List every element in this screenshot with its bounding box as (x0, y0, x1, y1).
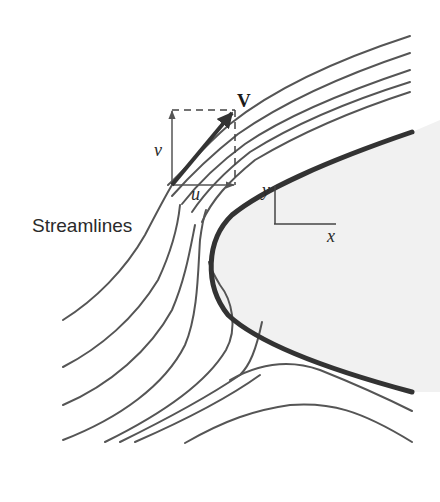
diagram-canvas: V v u y x Streamlines (0, 0, 440, 502)
u-component-label: u (191, 184, 200, 204)
streamline-diagram: V v u y x Streamlines (0, 0, 440, 502)
v-component-label: v (154, 140, 162, 160)
body-shape (211, 120, 440, 392)
velocity-label: V (237, 90, 251, 111)
y-axis-label: y (260, 180, 270, 200)
streamlines-label: Streamlines (32, 215, 132, 236)
x-axis-label: x (326, 226, 335, 246)
